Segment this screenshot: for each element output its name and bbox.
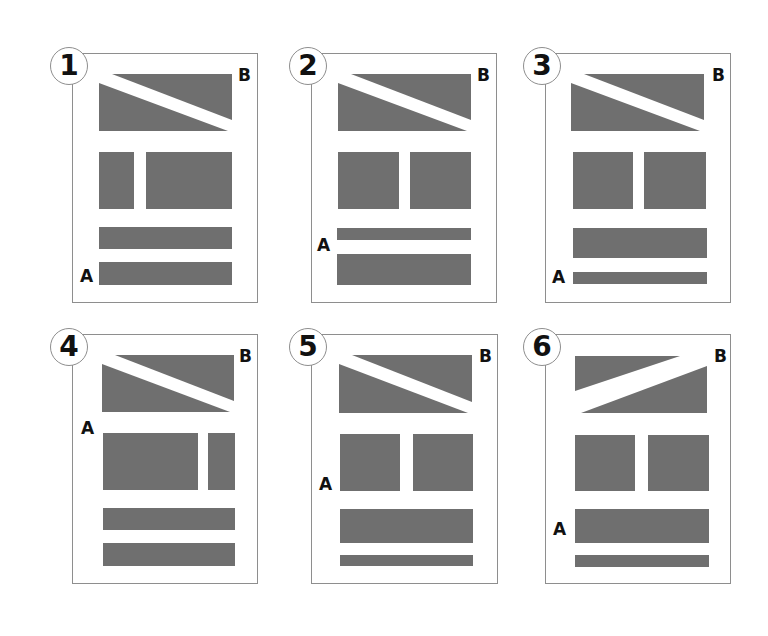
label-b: B xyxy=(477,67,490,84)
left-column-block xyxy=(340,434,400,491)
text-bar-1 xyxy=(99,227,232,249)
text-bar-2 xyxy=(340,555,473,566)
label-a: A xyxy=(552,269,565,286)
left-column-block xyxy=(575,435,635,491)
label-a: A xyxy=(319,476,332,493)
label-b: B xyxy=(239,348,252,365)
label-a: A xyxy=(553,521,566,538)
text-bar-1 xyxy=(103,508,235,530)
text-bar-2 xyxy=(337,254,471,285)
right-column-block xyxy=(146,152,232,209)
top-image-block xyxy=(102,355,234,412)
top-image-block xyxy=(99,74,232,131)
right-column-block xyxy=(644,152,706,209)
left-column-block xyxy=(573,152,633,209)
left-column-block xyxy=(103,433,198,490)
panel-number-badge: 4 xyxy=(50,328,88,366)
label-a: A xyxy=(81,420,94,437)
right-column-block xyxy=(413,434,473,491)
right-column-block xyxy=(648,435,709,491)
top-image-block xyxy=(575,356,707,413)
top-image-block xyxy=(338,74,471,131)
text-bar-1 xyxy=(337,228,471,240)
text-bar-1 xyxy=(340,509,473,543)
right-column-block xyxy=(410,152,471,209)
label-b: B xyxy=(714,348,727,365)
panel-number-badge: 6 xyxy=(523,328,561,366)
top-image-block xyxy=(339,355,472,413)
text-bar-1 xyxy=(573,228,707,258)
panel-number-badge: 2 xyxy=(289,47,327,85)
label-b: B xyxy=(712,67,725,84)
label-a: A xyxy=(317,237,330,254)
text-bar-1 xyxy=(575,509,709,543)
text-bar-2 xyxy=(573,272,707,284)
label-a: A xyxy=(80,268,93,285)
panel-number-badge: 5 xyxy=(289,328,327,366)
top-image-block xyxy=(571,74,704,131)
text-bar-2 xyxy=(575,555,709,567)
panel-number-badge: 1 xyxy=(50,47,88,85)
text-bar-2 xyxy=(103,543,235,566)
left-column-block xyxy=(338,152,399,209)
left-column-block xyxy=(99,152,134,209)
right-column-block xyxy=(208,433,235,490)
label-b: B xyxy=(479,348,492,365)
panel-number-badge: 3 xyxy=(523,47,561,85)
text-bar-2 xyxy=(99,262,232,285)
label-b: B xyxy=(238,67,251,84)
